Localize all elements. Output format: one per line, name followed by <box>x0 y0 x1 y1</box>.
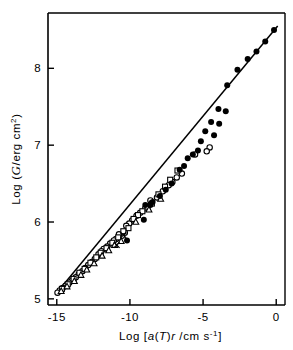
data-point-filled-circle <box>216 121 222 127</box>
data-point-filled-circle <box>190 151 196 157</box>
y-tick-label: 8 <box>34 62 41 74</box>
data-point-filled-circle <box>245 56 251 62</box>
x-tick-label: -5 <box>198 311 209 323</box>
data-point-filled-circle <box>253 48 259 54</box>
x-axis-title-text: Log [a(T)r /cm s-1] <box>119 329 222 343</box>
y-axis-title-text: Log (G/erg cm2) <box>8 113 23 204</box>
data-point-filled-circle <box>142 202 148 208</box>
data-point-filled-circle <box>211 132 217 138</box>
data-point-filled-circle <box>234 67 240 73</box>
x-axis-title: Log [a(T)r /cm s-1] <box>119 329 222 343</box>
x-tick-label: 0 <box>273 311 280 323</box>
data-point-filled-circle <box>177 167 183 173</box>
data-point-filled-circle <box>147 202 153 208</box>
figure-container: -15-10-505678 Log [a(T)r /cm s-1] Log (G… <box>0 0 293 350</box>
plot-background <box>0 0 293 350</box>
data-point-filled-circle <box>141 217 147 223</box>
y-tick-label: 6 <box>34 216 41 228</box>
data-point-filled-circle <box>262 38 268 44</box>
data-point-open-circle <box>174 175 179 180</box>
data-point-filled-circle <box>124 237 130 243</box>
data-point-filled-circle <box>169 181 175 187</box>
data-point-open-square <box>126 226 131 231</box>
x-tick-label: -10 <box>121 311 139 323</box>
data-point-filled-circle <box>195 148 201 154</box>
data-point-filled-circle <box>271 27 277 33</box>
data-point-filled-circle <box>223 108 229 114</box>
data-point-filled-circle <box>208 119 214 125</box>
data-point-filled-circle <box>198 138 204 144</box>
data-point-filled-circle <box>157 193 163 199</box>
data-point-filled-circle <box>215 106 221 112</box>
x-tick-label: -15 <box>48 311 66 323</box>
data-point-open-square <box>94 255 99 260</box>
data-point-open-circle <box>204 149 209 154</box>
y-axis-title: Log (G/erg cm2) <box>8 113 23 204</box>
y-tick-label: 7 <box>34 139 41 151</box>
scatter-plot: -15-10-505678 Log [a(T)r /cm s-1] Log (G… <box>0 0 293 350</box>
y-tick-label: 5 <box>34 293 41 305</box>
data-point-filled-circle <box>224 82 230 88</box>
data-point-filled-circle <box>202 128 208 134</box>
data-point-filled-circle <box>185 155 191 161</box>
data-point-filled-circle <box>163 187 169 193</box>
